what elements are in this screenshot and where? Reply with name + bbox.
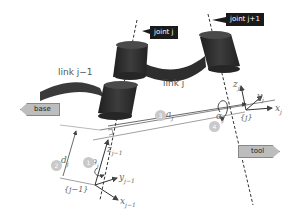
dh-parameters-diagram: joint j joint j+1 link j−1 link j base t…: [0, 0, 299, 218]
link-j-minus-1: [40, 82, 104, 101]
label-z-j-minus-1: zj−1: [107, 144, 122, 156]
callout-joint-j: joint j: [150, 26, 178, 39]
label-x-j: xj: [275, 103, 282, 115]
base-tag: base: [20, 103, 60, 116]
label-z-j: zj: [233, 79, 240, 91]
callout-joint-j1: joint j+1: [226, 13, 264, 26]
label-frame-j-minus-1: {j−1}: [64, 185, 88, 194]
step-badge-2: 2: [51, 160, 62, 171]
step-badge-3: 3: [155, 110, 166, 121]
label-d-j: dj: [61, 155, 69, 167]
label-x-j-minus-1: xj−1: [120, 196, 136, 208]
label-link-j-minus-1: link j−1: [58, 67, 93, 77]
label-a-j: aj: [166, 109, 173, 121]
joint-j-upper-cylinder: [113, 41, 148, 80]
tool-tag: tool: [238, 145, 280, 158]
joint-j-lower-cylinder: [98, 81, 138, 120]
step-badge-4: 4: [209, 121, 220, 132]
label-y-j-minus-1: yj−1: [119, 172, 135, 184]
label-frame-j: {j}: [240, 113, 253, 122]
label-y-j: yj: [257, 91, 264, 103]
label-link-j: link j: [163, 78, 184, 88]
step-badge-1: 1: [83, 157, 94, 168]
